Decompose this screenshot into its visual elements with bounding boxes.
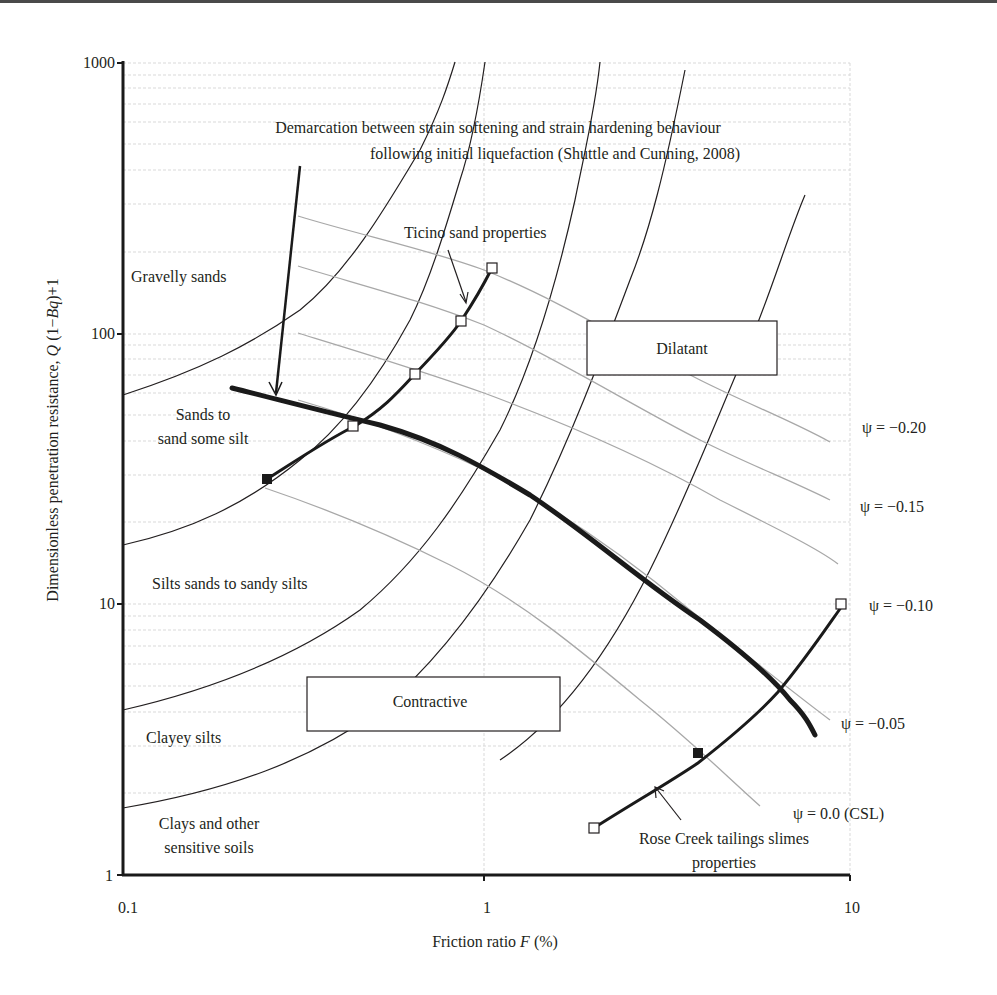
rose-creek-arrow: [655, 787, 681, 820]
ticino-arrow: [448, 250, 468, 303]
contractive-label: Contractive: [393, 693, 468, 710]
zone-label-clays-2: sensitive soils: [164, 839, 253, 856]
demarcation-annotation-line1: Demarcation between strain softening and…: [275, 119, 721, 137]
boundary-far-right: [500, 195, 805, 760]
psi-label-020: ψ = −0.20: [862, 419, 926, 437]
zone-label-sands-2: sand some silt: [158, 430, 249, 447]
ticino-annotation: Ticino sand properties: [404, 224, 547, 242]
rose-creek-annotation-line2: properties: [692, 854, 756, 872]
y-axis-title: Dimensionless penetration resistance, Q …: [44, 278, 62, 601]
rose-creek-annotation-line1: Rose Creek tailings slimes: [639, 830, 809, 848]
psi-label-015: ψ = −0.15: [860, 498, 924, 516]
psi-label-010: ψ = −0.10: [869, 597, 933, 615]
contour-psi-000: [265, 488, 760, 806]
rose-marker-filled: [693, 748, 703, 758]
zone-label-sands-1: Sands to: [176, 406, 231, 423]
x-axis-title: Friction ratio F (%): [432, 933, 558, 951]
ticino-marker: [410, 369, 420, 379]
ticino-marker: [456, 316, 466, 326]
y-tick-100: 100: [91, 325, 115, 342]
demarcation-arrow: [269, 166, 300, 395]
zone-label-gravelly-sands: Gravelly sands: [131, 268, 227, 286]
dilatant-label: Dilatant: [656, 340, 708, 357]
rose-marker: [836, 599, 846, 609]
demarcation-annotation-line2: following initial liquefaction (Shuttle …: [370, 145, 740, 163]
x-tick-0.1: 0.1: [118, 899, 138, 916]
zone-label-clays-1: Clays and other: [159, 815, 260, 833]
zone-label-silts: Silts sands to sandy silts: [152, 575, 308, 593]
ticino-marker-filled: [262, 474, 272, 484]
x-tick-1: 1: [483, 899, 491, 916]
rose-marker: [589, 823, 599, 833]
psi-label-000: ψ = 0.0 (CSL): [793, 805, 884, 823]
y-tick-1: 1: [105, 867, 113, 884]
y-tick-10: 10: [99, 595, 115, 612]
zone-label-clayey-silts: Clayey silts: [146, 729, 221, 747]
dilatant-box: Dilatant: [587, 321, 777, 375]
psi-label-005: ψ = −0.05: [841, 715, 905, 733]
contour-psi-015: [298, 266, 830, 500]
ticino-marker: [487, 263, 497, 273]
x-tick-10: 10: [844, 899, 860, 916]
ticino-marker: [348, 421, 358, 431]
cpt-state-parameter-chart: 1000 100 10 1 0.1 1 10 Friction ratio F …: [0, 0, 997, 995]
y-tick-1000: 1000: [83, 54, 115, 71]
contractive-box: Contractive: [307, 677, 560, 731]
